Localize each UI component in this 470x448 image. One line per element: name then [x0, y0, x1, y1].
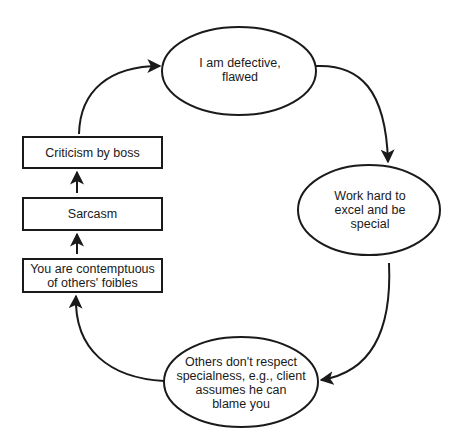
label-defective: I am defective, flawed — [170, 50, 310, 90]
arrow-others-to-contemptuous — [76, 296, 164, 381]
arrow-work-hard-to-others — [321, 263, 389, 380]
box-sarcasm: Sarcasm — [22, 197, 163, 231]
box-contemptuous: You are contemptuous of others' foibles — [22, 258, 163, 293]
arrow-defective-to-work-hard — [316, 66, 388, 162]
label-others-dont-respect: Others don't respect specialness, e.g., … — [166, 354, 316, 412]
box-criticism: Criticism by boss — [22, 136, 163, 169]
label-work-hard: Work hard to excel and be special — [305, 185, 435, 235]
arrow-criticism-to-defective — [79, 66, 160, 134]
